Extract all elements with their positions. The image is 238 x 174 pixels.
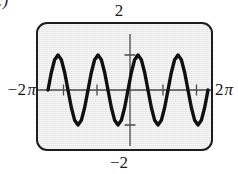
x-axis-max-label: 2π [215, 81, 233, 98]
calculator-screen [36, 22, 213, 151]
y-axis-max-label: 2 [115, 2, 124, 19]
x-axis-min-label: −2π [7, 81, 36, 98]
x-axis-min-number: −2 [7, 80, 26, 99]
x-axis-max-number: 2 [215, 80, 224, 99]
graphing-calculator-figure: c) 2 −2 −2π 2π [0, 0, 238, 174]
plot-canvas [36, 22, 213, 151]
x-axis-max-pi-icon: π [224, 80, 234, 99]
part-label: c) [0, 0, 8, 11]
x-axis-min-pi-icon: π [26, 80, 36, 99]
y-axis-min-label: −2 [110, 154, 128, 171]
